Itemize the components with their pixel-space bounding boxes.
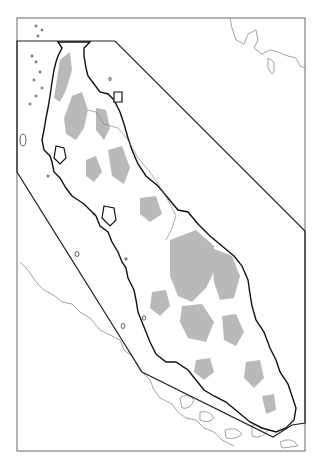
- gulf-coastline: [230, 18, 305, 68]
- tioman-island: [114, 92, 122, 102]
- koh-island: [268, 58, 274, 74]
- map-canvas: [0, 0, 319, 468]
